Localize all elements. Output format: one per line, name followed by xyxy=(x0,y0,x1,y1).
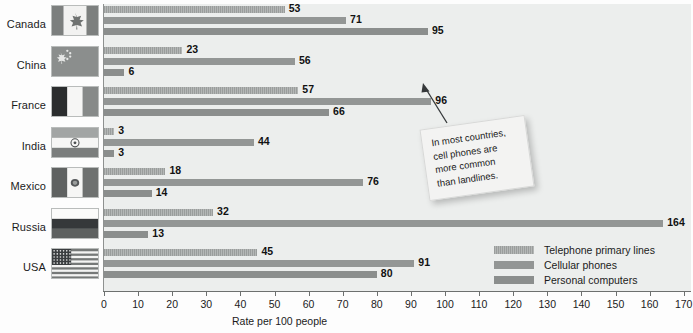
x-tick-140 xyxy=(581,291,582,296)
legend-swatch-icon-telephone xyxy=(494,246,534,254)
flag-graphic xyxy=(52,168,98,197)
bar-value-india-series2: 3 xyxy=(118,149,124,156)
bar-china-series0 xyxy=(104,47,182,54)
bar-value-china-series2: 6 xyxy=(128,68,134,75)
bar-canada-series0 xyxy=(104,6,285,13)
bar-value-canada-series0: 53 xyxy=(289,5,301,12)
x-tick-60 xyxy=(309,291,310,296)
bar-value-mexico-series2: 14 xyxy=(156,189,168,196)
country-label-france: France xyxy=(0,99,46,111)
x-tick-label-70: 70 xyxy=(337,298,349,310)
x-tick-label-100: 100 xyxy=(436,298,454,310)
bar-india-series0 xyxy=(104,128,114,135)
x-tick-170 xyxy=(684,291,685,296)
x-tick-label-60: 60 xyxy=(303,298,315,310)
bar-value-russia-series0: 32 xyxy=(217,208,229,215)
x-tick-label-10: 10 xyxy=(132,298,144,310)
bar-value-mexico-series0: 18 xyxy=(169,167,181,174)
bar-canada-series2 xyxy=(104,28,428,35)
x-tick-150 xyxy=(616,291,617,296)
x-tick-label-80: 80 xyxy=(371,298,383,310)
x-tick-label-40: 40 xyxy=(235,298,247,310)
bar-value-usa-series1: 91 xyxy=(418,259,430,266)
flag-mexico-icon xyxy=(51,167,99,198)
country-label-canada: Canada xyxy=(0,18,46,30)
flag-france-icon xyxy=(51,86,99,117)
bar-value-canada-series1: 71 xyxy=(350,16,362,23)
x-tick-10 xyxy=(138,291,139,296)
x-tick-130 xyxy=(547,291,548,296)
bar-value-france-series1: 96 xyxy=(435,97,447,104)
x-tick-40 xyxy=(240,291,241,296)
x-tick-label-140: 140 xyxy=(573,298,591,310)
callout-note: In most countries, cell phones are more … xyxy=(420,115,535,201)
flag-graphic xyxy=(52,47,98,76)
bar-value-india-series0: 3 xyxy=(118,127,124,134)
bar-usa-series0 xyxy=(104,249,257,256)
bar-china-series1 xyxy=(104,58,295,65)
x-tick-label-110: 110 xyxy=(471,298,488,310)
x-tick-70 xyxy=(343,291,344,296)
bar-france-series2 xyxy=(104,109,329,116)
x-tick-100 xyxy=(445,291,446,296)
x-tick-30 xyxy=(206,291,207,296)
x-tick-label-90: 90 xyxy=(405,298,417,310)
x-tick-label-30: 30 xyxy=(200,298,212,310)
country-label-russia: Russia xyxy=(0,221,46,233)
bar-mexico-series0 xyxy=(104,168,165,175)
x-tick-50 xyxy=(275,291,276,296)
bar-mexico-series2 xyxy=(104,190,152,197)
bar-france-series1 xyxy=(104,98,431,105)
bar-value-mexico-series1: 76 xyxy=(367,178,379,185)
bar-india-series2 xyxy=(104,150,114,157)
x-tick-label-160: 160 xyxy=(641,298,659,310)
x-tick-label-20: 20 xyxy=(166,298,178,310)
x-tick-label-150: 150 xyxy=(607,298,625,310)
x-tick-20 xyxy=(172,291,173,296)
bar-value-russia-series1: 164 xyxy=(667,219,685,226)
bar-value-france-series2: 66 xyxy=(333,108,345,115)
flag-china-icon xyxy=(51,46,99,77)
flag-usa-icon xyxy=(51,248,99,279)
bar-usa-series1 xyxy=(104,260,414,267)
x-tick-160 xyxy=(650,291,651,296)
bar-russia-series1 xyxy=(104,220,663,227)
bar-value-usa-series2: 80 xyxy=(381,270,393,277)
country-label-china: China xyxy=(0,59,46,71)
bar-value-china-series0: 23 xyxy=(186,46,198,53)
bar-mexico-series1 xyxy=(104,179,363,186)
callout-note-text: In most countries, cell phones are more … xyxy=(431,124,525,190)
x-tick-label-120: 120 xyxy=(504,298,522,310)
x-tick-0 xyxy=(104,291,105,296)
bar-value-usa-series0: 45 xyxy=(261,248,273,255)
bar-russia-series2 xyxy=(104,231,148,238)
x-tick-120 xyxy=(513,291,514,296)
bar-value-india-series1: 44 xyxy=(258,138,270,145)
flag-canada-icon xyxy=(51,5,99,36)
legend-swatch-icon-computers xyxy=(494,276,534,284)
flag-graphic xyxy=(52,128,98,157)
x-tick-90 xyxy=(411,291,412,296)
bar-value-canada-series2: 95 xyxy=(432,27,444,34)
bar-india-series1 xyxy=(104,139,254,146)
legend-swatch-icon-cellular xyxy=(494,261,534,269)
country-label-india: India xyxy=(0,140,46,152)
flag-graphic xyxy=(52,209,98,238)
x-tick-label-170: 170 xyxy=(675,298,693,310)
country-label-usa: USA xyxy=(0,261,46,273)
bar-canada-series1 xyxy=(104,17,346,24)
flag-graphic xyxy=(52,87,98,116)
bar-value-china-series1: 56 xyxy=(299,57,311,64)
bar-russia-series0 xyxy=(104,209,213,216)
flag-india-icon xyxy=(51,127,99,158)
bar-value-france-series0: 57 xyxy=(302,86,314,93)
x-tick-110 xyxy=(479,291,480,296)
country-label-mexico: Mexico xyxy=(0,180,46,192)
x-axis-title: Rate per 100 people xyxy=(232,315,327,327)
legend-label-cellular: Cellular phones xyxy=(544,258,617,272)
x-tick-80 xyxy=(377,291,378,296)
x-tick-label-50: 50 xyxy=(269,298,281,310)
x-tick-label-130: 130 xyxy=(539,298,557,310)
bar-value-russia-series2: 13 xyxy=(152,230,164,237)
chart-root: Canada537195China23566France579666India3… xyxy=(0,0,693,333)
